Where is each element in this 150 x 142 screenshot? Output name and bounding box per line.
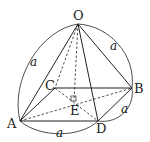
pyramid-diagram: O C B A E D a a a a: [0, 0, 150, 142]
vertex-label-E: E: [70, 103, 80, 118]
vertex-label-C: C: [45, 78, 55, 93]
vertex-label-A: A: [6, 116, 17, 131]
vertex-label-O: O: [73, 8, 84, 23]
length-label-OA: a: [30, 55, 37, 69]
vertex-label-D: D: [96, 121, 106, 136]
vertex-label-B: B: [134, 81, 144, 96]
length-label-DB: a: [121, 102, 128, 116]
right-angle-marker: [71, 96, 76, 101]
edge-OE: [74, 24, 78, 101]
length-label-AD: a: [56, 126, 63, 140]
edge-OD: [78, 24, 98, 121]
edge-OB: [78, 24, 132, 88]
length-label-OB: a: [110, 39, 117, 53]
